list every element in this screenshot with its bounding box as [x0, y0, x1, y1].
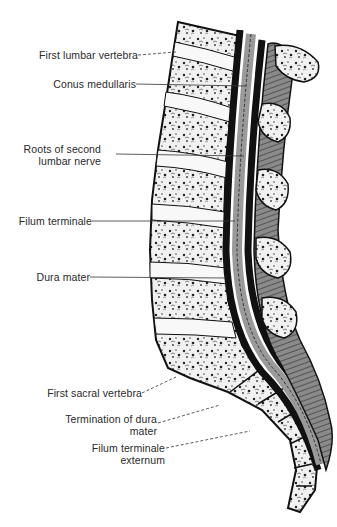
label-dura-mater: Dura mater [36, 271, 90, 283]
label-first-lumbar-vertebra: First lumbar vertebra [39, 49, 138, 61]
label-first-sacral-vertebra: First sacral vertebra [47, 387, 142, 399]
label-conus-medullaris: Conus medullaris [53, 78, 136, 90]
label-termination-of-dura-mater: Termination of dura mater [65, 413, 157, 437]
label-filum-terminale-externum: Filum terminale externum [92, 442, 165, 466]
spine-sagittal-illustration: First lumbar vertebra Conus medullaris R… [0, 0, 337, 527]
lumbar-sacral-spine-drawing [0, 0, 337, 527]
label-roots-of-second-lumbar-nerve: Roots of second lumbar nerve [24, 143, 101, 167]
label-filum-terminale: Filum terminale [19, 215, 92, 227]
